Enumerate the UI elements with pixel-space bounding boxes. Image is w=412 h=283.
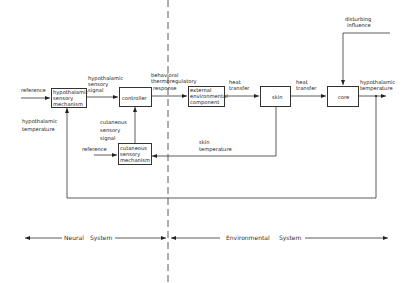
- behavioral-label-2: thermoregulatory: [151, 78, 197, 84]
- controller-box: controller: [119, 87, 152, 107]
- skin-temp-label-1: skin: [199, 139, 209, 145]
- hypothalamic-temp-left-label-1: hypothalamic: [22, 118, 57, 124]
- core-box: core: [327, 86, 359, 107]
- environmental-system-label-2: System: [279, 234, 301, 241]
- cutaneous-sensory-mechanism-box: cutaneous sensory mechanism: [118, 143, 152, 165]
- box-line: mechanism: [53, 101, 83, 107]
- disturbing-label-2: influence: [347, 22, 371, 28]
- box-line: component: [190, 99, 219, 105]
- reference-bottom-label: reference: [82, 146, 107, 152]
- heat-transfer-2-label-2: transfer: [296, 85, 317, 91]
- heat-transfer-1-label-2: transfer: [229, 85, 250, 91]
- behavioral-label-3: response: [153, 85, 177, 91]
- skin-box: skin: [260, 86, 291, 107]
- cutaneous-signal-label-2: sensory: [100, 127, 120, 133]
- box-label: skin: [272, 94, 282, 100]
- box-line: mechanism: [120, 157, 150, 163]
- box-label: controller: [122, 95, 147, 101]
- external-environmental-component-box: external environmental component: [188, 86, 225, 107]
- neural-system-label-1: Neural: [64, 234, 84, 241]
- reference-label: reference: [21, 87, 46, 93]
- skin-temp-label-2: temperature: [199, 146, 232, 152]
- cutaneous-signal-label-1: cutaneous: [100, 119, 127, 125]
- neural-system-label-2: System: [90, 234, 112, 241]
- hypothalamic-signal-label-3: signal: [88, 87, 103, 93]
- environmental-system-label-1: Environmental: [226, 234, 270, 241]
- box-label: core: [338, 94, 349, 100]
- hypothalamic-temp-left-label-2: temperature: [22, 126, 55, 132]
- hypothalamic-temp-out-label-2: temperature: [360, 85, 393, 91]
- cutaneous-signal-label-3: signal: [100, 135, 115, 141]
- hypothalamic-sensory-mechanism-box: hypothalamic sensory mechanism: [51, 88, 87, 108]
